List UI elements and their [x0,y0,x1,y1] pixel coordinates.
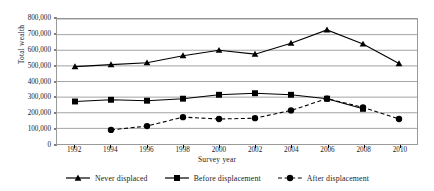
x-tick-mark [74,145,75,148]
legend-triangle-icon [65,173,91,183]
x-tick-mark [328,145,329,148]
x-tick-mark [147,145,148,148]
legend-square-icon [164,173,190,183]
chart-legend: Never displacedBefore displacementAfter … [0,168,434,188]
wealth-line-chart: Total wealth 0100,000200,000300,000400,0… [0,0,434,191]
legend-label: Never displaced [95,174,148,183]
x-tick-mark [291,145,292,148]
x-tick-mark [400,145,401,148]
x-tick-mark [110,145,111,148]
x-tick-mark [219,145,220,148]
x-tick-mark [183,145,184,148]
x-tick-mark [364,145,365,148]
legend-item[interactable]: After displacement [277,173,369,183]
x-axis-title: Survey year [0,155,434,164]
legend-item[interactable]: Never displaced [65,173,148,183]
legend-label: After displacement [307,174,369,183]
legend-label: Before displacement [194,174,261,183]
x-tick-mark [255,145,256,148]
legend-item[interactable]: Before displacement [164,173,261,183]
legend-circle-icon [277,173,303,183]
